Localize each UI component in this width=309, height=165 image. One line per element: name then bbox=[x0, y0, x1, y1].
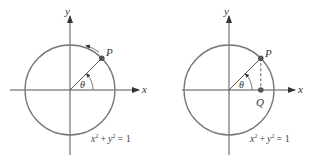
point-p-label: P bbox=[105, 46, 113, 58]
point-p-label: P bbox=[264, 47, 272, 59]
figure-right: x y P Q θ x2+y2= 1 bbox=[182, 5, 303, 155]
point-p bbox=[258, 55, 264, 61]
radius-line bbox=[229, 58, 261, 90]
theta-label: θ bbox=[80, 79, 85, 90]
unit-circle-diagrams: x y P θ x2+y2= 1 x y P Q θ x2+y2= 1 bbox=[0, 0, 309, 165]
theta-label: θ bbox=[239, 79, 244, 90]
x-axis-label: x bbox=[297, 83, 303, 95]
y-axis-label: y bbox=[64, 5, 70, 17]
angle-arc bbox=[245, 74, 252, 90]
radius-line bbox=[70, 58, 102, 90]
angle-arc bbox=[86, 74, 93, 90]
point-q-label: Q bbox=[256, 96, 264, 108]
y-axis-label: y bbox=[223, 5, 229, 17]
circle-equation: x2+y2= 1 bbox=[249, 133, 290, 144]
figure-left: x y P θ x2+y2= 1 bbox=[10, 5, 147, 155]
x-axis-label: x bbox=[141, 83, 147, 95]
circle-equation: x2+y2= 1 bbox=[90, 133, 131, 144]
point-p bbox=[99, 55, 105, 61]
point-q bbox=[258, 87, 264, 93]
